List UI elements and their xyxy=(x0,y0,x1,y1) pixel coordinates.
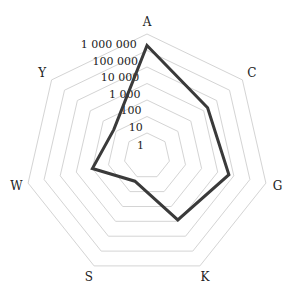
axis-label-a: A xyxy=(142,15,152,29)
radar-chart: 1101001 00010 000100 0001 000 000 ACGKSW… xyxy=(0,0,284,290)
grid-ring-1 xyxy=(109,117,186,192)
axis-label-c: C xyxy=(247,66,256,80)
tick-label: 10 xyxy=(129,121,143,134)
radar-chart-svg: 1101001 00010 000100 0001 000 000 ACGKSW… xyxy=(0,0,284,290)
axis-label-k: K xyxy=(201,270,211,284)
axis-label-g: G xyxy=(273,179,283,193)
axis-label-s: S xyxy=(85,270,93,284)
grid-ring-3 xyxy=(76,84,217,222)
axis-label-w: W xyxy=(10,179,23,193)
grid-rings xyxy=(28,34,266,266)
axis-label-y: Y xyxy=(37,66,47,80)
tick-label: 1 000 000 xyxy=(81,38,137,51)
grid-ring-6 xyxy=(28,34,266,266)
tick-label: 1 xyxy=(137,139,144,152)
grid-ring-0 xyxy=(125,133,170,177)
grid-ring-4 xyxy=(60,67,234,236)
tick-label: 100 000 xyxy=(93,55,139,68)
